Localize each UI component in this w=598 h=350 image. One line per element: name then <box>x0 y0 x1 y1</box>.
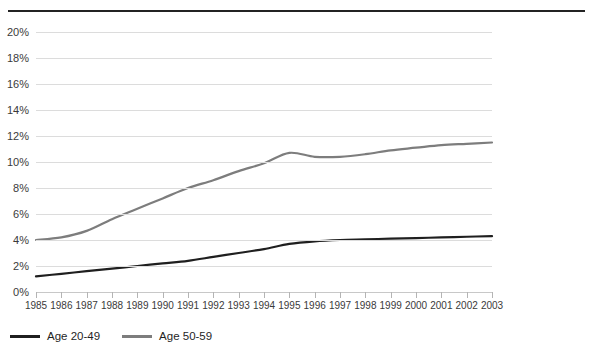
legend-line-swatch-icon <box>122 335 152 338</box>
gridline <box>36 162 492 163</box>
x-axis-tick <box>492 292 493 298</box>
x-axis-tick-label: 1994 <box>253 301 275 311</box>
legend-item[interactable]: Age 20-49 <box>10 331 100 343</box>
gridline <box>36 110 492 111</box>
y-axis-tick-label: 12% <box>7 131 29 142</box>
chart-legend: Age 20-49Age 50-59 <box>10 331 212 343</box>
x-axis-tick <box>213 292 214 298</box>
y-axis-tick-label: 18% <box>7 53 29 64</box>
y-axis-tick-label: 4% <box>13 235 29 246</box>
legend-item-label: Age 50-59 <box>159 331 212 343</box>
x-axis-tick-label: 1992 <box>202 301 224 311</box>
gridline <box>36 240 492 241</box>
y-axis-tick-label: 2% <box>13 261 29 272</box>
x-axis-tick-label: 1986 <box>50 301 72 311</box>
y-axis-tick-label: 14% <box>7 105 29 116</box>
x-axis-tick <box>239 292 240 298</box>
legend-line-swatch-icon <box>10 335 40 338</box>
x-axis-tick <box>416 292 417 298</box>
x-axis-tick <box>315 292 316 298</box>
x-axis-tick <box>467 292 468 298</box>
x-axis-tick-label: 1988 <box>101 301 123 311</box>
gridline <box>36 214 492 215</box>
x-axis-tick-label: 2000 <box>405 301 427 311</box>
x-axis-tick-label: 1985 <box>25 301 47 311</box>
y-axis-tick-label: 8% <box>13 183 29 194</box>
x-axis-tick <box>61 292 62 298</box>
gridline <box>36 58 492 59</box>
top-divider-rule <box>8 10 585 12</box>
x-axis-tick-label: 2001 <box>430 301 452 311</box>
x-axis-tick-label: 1991 <box>177 301 199 311</box>
plot-area: 0%2%4%6%8%10%12%14%16%18%20%198519861987… <box>36 32 492 292</box>
gridline <box>36 188 492 189</box>
y-axis-tick-label: 6% <box>13 209 29 220</box>
legend-item-label: Age 20-49 <box>47 331 100 343</box>
chart-figure: 0%2%4%6%8%10%12%14%16%18%20%198519861987… <box>0 0 598 350</box>
series-line <box>36 143 492 241</box>
series-line <box>36 236 492 276</box>
x-axis-tick <box>163 292 164 298</box>
x-axis-tick <box>188 292 189 298</box>
x-axis-tick <box>340 292 341 298</box>
x-axis-tick <box>365 292 366 298</box>
x-axis-tick-label: 2002 <box>456 301 478 311</box>
x-axis-tick <box>391 292 392 298</box>
gridline <box>36 32 492 33</box>
gridline <box>36 136 492 137</box>
x-axis-tick <box>87 292 88 298</box>
x-axis-tick <box>441 292 442 298</box>
x-axis-tick <box>36 292 37 298</box>
x-axis-tick-label: 1993 <box>228 301 250 311</box>
x-axis-tick <box>289 292 290 298</box>
x-axis-tick <box>112 292 113 298</box>
y-axis-tick-label: 16% <box>7 79 29 90</box>
x-axis-tick-label: 1987 <box>76 301 98 311</box>
gridline <box>36 266 492 267</box>
x-axis-tick-label: 1996 <box>304 301 326 311</box>
x-axis-tick-label: 2003 <box>481 301 503 311</box>
y-axis-tick-label: 10% <box>7 157 29 168</box>
x-axis-tick-label: 1997 <box>329 301 351 311</box>
legend-item[interactable]: Age 50-59 <box>122 331 212 343</box>
gridline <box>36 84 492 85</box>
y-axis-tick-label: 0% <box>13 287 29 298</box>
x-axis-tick-label: 1990 <box>152 301 174 311</box>
x-axis-tick-label: 1999 <box>380 301 402 311</box>
x-axis-tick-label: 1989 <box>126 301 148 311</box>
x-axis-tick <box>264 292 265 298</box>
y-axis-tick-label: 20% <box>7 27 29 38</box>
x-axis-tick <box>137 292 138 298</box>
x-axis-tick-label: 1995 <box>278 301 300 311</box>
x-axis-tick-label: 1998 <box>354 301 376 311</box>
